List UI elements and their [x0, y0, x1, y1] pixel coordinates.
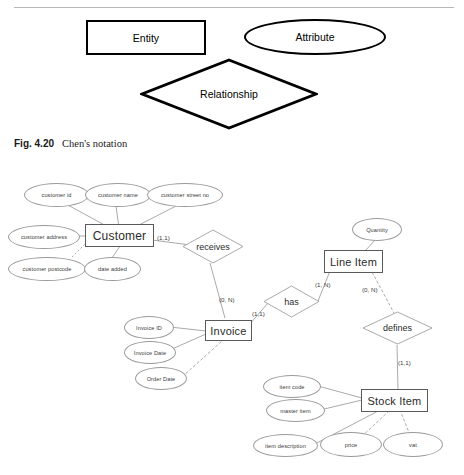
- entity-customer[interactable]: Customer: [85, 224, 154, 247]
- link-customer-postcode: [72, 243, 86, 257]
- cardinality-customer-receives: (1,1): [157, 234, 170, 241]
- attribute-price[interactable]: price: [320, 432, 382, 457]
- attribute-invoice-id-label: Invoice ID: [136, 325, 162, 331]
- attribute-customer-id-label: customer id: [41, 192, 71, 198]
- attribute-order-date-label: Order Date: [147, 376, 176, 382]
- relationship-receives[interactable]: receives: [182, 229, 244, 264]
- attribute-invoice-date-label: Invoice Date: [134, 350, 166, 356]
- attribute-vat[interactable]: vat: [383, 432, 443, 457]
- attribute-invoice-date[interactable]: Invoice Date: [124, 341, 176, 364]
- relationship-receives-label: receives: [196, 242, 230, 252]
- cardinality-defines-stock-item: (1,1): [398, 359, 411, 366]
- attribute-customer-street-no-label: customer street no: [161, 192, 209, 198]
- relationship-has-label-wrap: has: [263, 285, 320, 318]
- link-defines-stock-item: [397, 345, 398, 390]
- cardinality-line-item-defines: (0, N): [362, 286, 377, 293]
- attribute-item-description-label: item description: [265, 443, 306, 449]
- attribute-customer-postcode-label: customer postcode: [23, 266, 72, 272]
- link-master-item: [320, 400, 362, 410]
- attribute-customer-address-label: customer address: [21, 234, 67, 240]
- entity-stock-item[interactable]: Stock Item: [361, 389, 428, 412]
- link-line-item-quantity: [366, 240, 375, 250]
- link-invoice-id: [170, 327, 206, 331]
- attribute-item-description[interactable]: item description: [253, 434, 318, 457]
- entity-stock-item-label: Stock Item: [368, 395, 422, 407]
- attribute-date-added[interactable]: date added: [84, 257, 141, 281]
- attribute-item-code[interactable]: item code: [263, 375, 321, 398]
- link-order-date: [182, 341, 222, 377]
- entity-customer-label: Customer: [93, 229, 147, 243]
- entity-invoice-label: Invoice: [210, 325, 246, 337]
- attribute-date-added-label: date added: [98, 266, 127, 272]
- cardinality-has-line-item: (1, N): [315, 281, 330, 288]
- entity-line-item[interactable]: Line Item: [324, 250, 383, 273]
- attribute-customer-address[interactable]: customer address: [8, 225, 80, 249]
- attribute-quantity-label: Quantity: [366, 227, 388, 233]
- attribute-item-code-label: item code: [279, 384, 304, 390]
- attribute-customer-street-no[interactable]: customer street no: [147, 183, 223, 207]
- relationship-defines-label-wrap: defines: [362, 311, 433, 345]
- attribute-master-item-label: master item: [280, 408, 310, 414]
- attribute-customer-postcode[interactable]: customer postcode: [8, 257, 86, 281]
- relationship-defines[interactable]: defines: [362, 311, 433, 345]
- cardinality-receives-invoice: (0, N): [219, 296, 234, 303]
- attribute-order-date[interactable]: Order Date: [135, 367, 187, 390]
- attribute-quantity[interactable]: Quantity: [352, 218, 402, 241]
- link-invoice-date: [172, 334, 206, 349]
- relationship-has[interactable]: has: [263, 285, 320, 318]
- attribute-master-item[interactable]: master item: [266, 399, 325, 422]
- link-item-code: [318, 386, 362, 398]
- relationship-has-label: has: [284, 297, 299, 307]
- figure-page: Entity Attribute Relationship Fig. 4.20C…: [0, 0, 464, 475]
- attribute-customer-id[interactable]: customer id: [24, 183, 89, 207]
- attribute-customer-name[interactable]: customer name: [85, 183, 151, 207]
- relationship-receives-label-wrap: receives: [182, 229, 244, 264]
- relationship-defines-label: defines: [383, 323, 412, 333]
- entity-invoice[interactable]: Invoice: [205, 320, 252, 341]
- entity-line-item-label: Line Item: [330, 256, 377, 268]
- attribute-price-label: price: [345, 442, 358, 448]
- attribute-vat-label: vat: [409, 442, 417, 448]
- cardinality-invoice-has: (1,1): [252, 310, 265, 317]
- link-receives-invoice: [210, 263, 225, 318]
- attribute-invoice-id[interactable]: Invoice ID: [124, 316, 174, 339]
- attribute-customer-name-label: customer name: [98, 192, 138, 198]
